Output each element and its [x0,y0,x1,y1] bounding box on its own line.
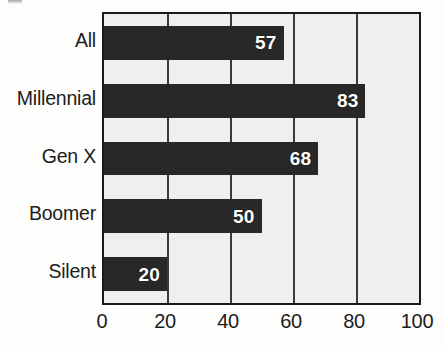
bar: 68 [104,142,318,176]
category-label: Boomer [0,205,96,225]
x-tick-label: 60 [280,311,302,331]
bar: 57 [104,26,284,60]
category-label: Millennial [0,89,96,109]
bar: 50 [104,199,262,233]
bar: 83 [104,84,365,118]
x-tick-label: 20 [154,311,176,331]
bar-chart-figure: AllMillennialGen XBoomerSilent 578368502… [0,0,443,349]
category-label: Gen X [0,147,96,167]
x-tick-label: 0 [97,311,108,331]
category-label: Silent [0,262,96,282]
bar-value-label: 68 [290,149,312,168]
bar-value-label: 83 [337,91,359,110]
x-tick-label: 100 [401,311,433,331]
value-axis: 020406080100 [102,311,421,345]
plot-area: 5783685020 [102,12,421,305]
x-tick-label: 40 [217,311,239,331]
category-axis: AllMillennialGen XBoomerSilent [0,12,96,305]
bar: 20 [104,257,167,291]
bar-value-label: 57 [255,33,277,52]
scan-artifact [8,0,22,4]
category-label: All [0,31,96,51]
bar-value-label: 20 [138,265,160,284]
x-tick-label: 80 [343,311,365,331]
gridline-80 [356,14,358,303]
bar-value-label: 50 [233,207,255,226]
